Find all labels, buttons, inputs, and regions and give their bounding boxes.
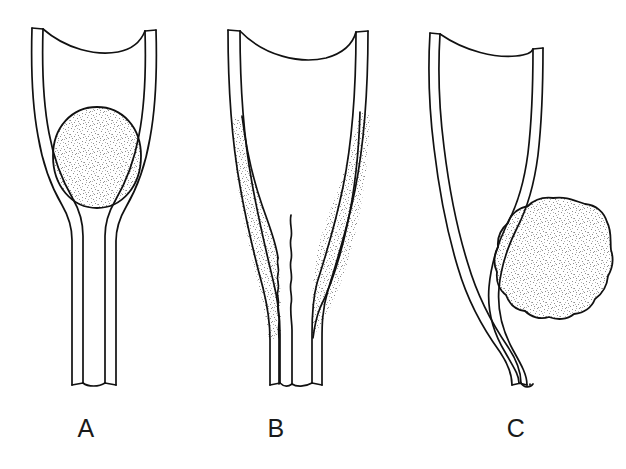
panel-c-cap-left [430,33,440,34]
panel-b-cap-left [228,30,240,31]
panel-b-cap-right [356,31,368,32]
panel-a-cap-left [32,28,43,29]
panel-a-cap-right [145,30,156,31]
panel-label-b: B [256,416,296,441]
figure-root: A B C [0,0,626,469]
panel-label-c: C [496,416,536,441]
panel-c-cap-right [533,48,543,49]
panel-label-a: A [66,416,106,441]
anatomical-line-drawing [0,0,626,469]
